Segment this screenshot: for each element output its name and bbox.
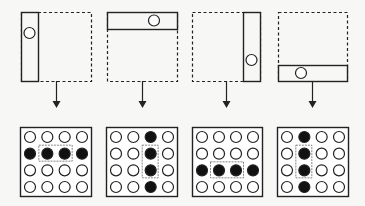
empty-dot-icon <box>128 182 139 193</box>
solid-strip <box>108 13 178 30</box>
solid-strip <box>279 66 348 82</box>
empty-dot-icon <box>316 182 327 193</box>
filled-dot-icon <box>299 132 310 143</box>
empty-dot-icon <box>248 148 259 159</box>
empty-dot-icon <box>59 132 70 143</box>
empty-dot-icon <box>282 182 293 193</box>
filled-dot-icon <box>299 182 310 193</box>
panel-bottom <box>278 13 349 197</box>
empty-dot-icon <box>42 132 53 143</box>
arrow-down-icon <box>223 101 231 108</box>
empty-dot-icon <box>25 165 36 176</box>
diagram-canvas <box>0 0 365 206</box>
empty-dot-icon <box>197 132 208 143</box>
empty-dot-icon <box>334 148 345 159</box>
empty-dot-icon <box>128 132 139 143</box>
solid-strip <box>22 13 39 82</box>
marker-circle-icon <box>296 68 307 79</box>
empty-dot-icon <box>111 182 122 193</box>
filled-dot-icon <box>214 165 225 176</box>
empty-dot-icon <box>197 148 208 159</box>
filled-dot-icon <box>145 148 156 159</box>
empty-dot-icon <box>316 132 327 143</box>
empty-dot-icon <box>111 165 122 176</box>
filled-dot-icon <box>197 165 208 176</box>
empty-dot-icon <box>248 132 259 143</box>
empty-dot-icon <box>111 148 122 159</box>
empty-dot-icon <box>77 132 88 143</box>
arrow-down-icon <box>309 101 317 108</box>
filled-dot-icon <box>299 148 310 159</box>
marker-circle-icon <box>246 55 257 66</box>
empty-dot-icon <box>25 182 36 193</box>
empty-dot-icon <box>316 165 327 176</box>
marker-circle-icon <box>24 28 35 39</box>
empty-dot-icon <box>25 132 36 143</box>
empty-dot-icon <box>111 132 122 143</box>
filled-dot-icon <box>59 148 70 159</box>
empty-dot-icon <box>231 182 242 193</box>
filled-dot-icon <box>231 165 242 176</box>
marker-circle-icon <box>149 15 160 26</box>
panel-right <box>193 13 263 197</box>
filled-dot-icon <box>42 148 53 159</box>
arrow-down-icon <box>53 101 61 108</box>
empty-dot-icon <box>214 132 225 143</box>
empty-dot-icon <box>282 148 293 159</box>
filled-dot-icon <box>25 148 36 159</box>
empty-dot-icon <box>163 148 174 159</box>
empty-dot-icon <box>316 148 327 159</box>
empty-dot-icon <box>59 182 70 193</box>
filled-dot-icon <box>299 165 310 176</box>
empty-dot-icon <box>197 182 208 193</box>
diagram-svg <box>0 0 365 206</box>
empty-dot-icon <box>128 148 139 159</box>
arrow-down-icon <box>139 101 147 108</box>
empty-dot-icon <box>163 182 174 193</box>
empty-dot-icon <box>248 182 259 193</box>
filled-dot-icon <box>248 165 259 176</box>
empty-dot-icon <box>334 132 345 143</box>
empty-dot-icon <box>231 132 242 143</box>
filled-dot-icon <box>77 148 88 159</box>
empty-dot-icon <box>334 182 345 193</box>
empty-dot-icon <box>231 148 242 159</box>
empty-dot-icon <box>77 182 88 193</box>
solid-strip <box>244 13 261 82</box>
empty-dot-icon <box>214 148 225 159</box>
empty-dot-icon <box>163 165 174 176</box>
empty-dot-icon <box>334 165 345 176</box>
empty-dot-icon <box>77 165 88 176</box>
empty-dot-icon <box>42 165 53 176</box>
empty-dot-icon <box>214 182 225 193</box>
empty-dot-icon <box>128 165 139 176</box>
panel-left <box>21 13 92 197</box>
filled-dot-icon <box>145 165 156 176</box>
empty-dot-icon <box>59 165 70 176</box>
filled-dot-icon <box>145 182 156 193</box>
panel-top <box>107 13 178 197</box>
empty-dot-icon <box>163 132 174 143</box>
empty-dot-icon <box>282 132 293 143</box>
empty-dot-icon <box>42 182 53 193</box>
filled-dot-icon <box>145 132 156 143</box>
empty-dot-icon <box>282 165 293 176</box>
